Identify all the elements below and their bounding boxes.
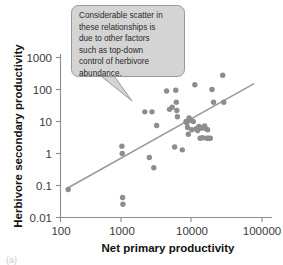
x-tick-label-1000: 1000	[109, 225, 135, 237]
scatter-point	[120, 151, 125, 156]
scatter-point	[208, 136, 213, 141]
scatter-point	[149, 109, 154, 114]
scatter-point	[191, 119, 196, 124]
scatter-point	[142, 109, 147, 114]
y-axis-ticks	[56, 58, 61, 218]
panel-corner-label: (a)	[6, 255, 17, 265]
y-tick-label-100: 100	[33, 84, 52, 96]
y-tick-label-10: 10	[39, 116, 52, 128]
y-tick-label-1: 1	[46, 148, 52, 160]
scatter-point	[154, 123, 159, 128]
scatter-point	[65, 187, 70, 192]
callout-line-1: Considerable scatter in	[79, 11, 163, 20]
scatter-point	[120, 195, 125, 200]
x-tick-label-100: 100	[51, 225, 70, 237]
scatter-point	[173, 88, 178, 93]
scatter-point	[186, 132, 191, 137]
scatter-point	[180, 147, 185, 152]
y-axis-title: Herbivore secondary productivity	[12, 44, 24, 228]
x-tick-label-10000: 10000	[176, 225, 208, 237]
scatter-point	[169, 104, 174, 109]
y-tick-label-0.01: 0.01	[30, 212, 52, 224]
scatter-point	[221, 100, 226, 105]
figure-panel: 1000 100 10 1 0.1 0.01 100 1000 10000 10…	[0, 0, 283, 265]
scatter-point	[209, 87, 214, 92]
x-axis-ticks	[61, 218, 263, 223]
y-tick-label-0.1: 0.1	[36, 180, 52, 192]
scatter-point	[174, 100, 179, 105]
callout-line-3: due to other factors	[79, 34, 150, 43]
callout-line-2: these relationships is	[79, 23, 155, 32]
x-axis-title: Net primary productivity	[102, 242, 236, 254]
scatter-point	[164, 88, 169, 93]
trend-line	[68, 84, 253, 188]
scatter-point	[120, 202, 125, 207]
x-axis-tick-labels: 100 1000 10000 100000	[51, 225, 281, 237]
scatter-points-group	[65, 72, 226, 206]
scatter-point	[205, 127, 210, 132]
scatter-point	[175, 114, 180, 119]
scatter-chart: 1000 100 10 1 0.1 0.01 100 1000 10000 10…	[0, 0, 283, 265]
callout-line-4: such as top-down	[79, 46, 144, 55]
scatter-point	[147, 155, 152, 160]
y-tick-label-1000: 1000	[26, 52, 52, 64]
x-tick-label-100000: 100000	[243, 225, 281, 237]
annotation-callout: Considerable scatter in these relationsh…	[72, 6, 185, 102]
scatter-point	[151, 165, 156, 170]
callout-line-6: abundance.	[79, 69, 122, 78]
scatter-point	[119, 143, 124, 148]
y-axis-tick-labels: 1000 100 10 1 0.1 0.01	[26, 52, 52, 224]
axes-group	[61, 54, 273, 218]
scatter-point	[211, 100, 216, 105]
scatter-point	[174, 108, 179, 113]
callout-line-5: control of herbivore	[79, 57, 150, 66]
scatter-point	[192, 82, 197, 87]
scatter-point	[172, 144, 177, 149]
scatter-point	[220, 72, 225, 77]
